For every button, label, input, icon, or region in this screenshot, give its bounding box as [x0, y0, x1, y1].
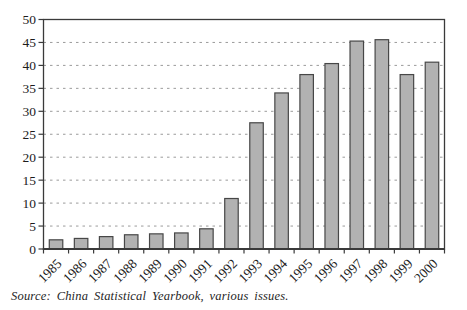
x-tick-label-1999: 1999 [386, 256, 416, 286]
bar-1993 [250, 123, 264, 249]
y-tick-label-30: 30 [23, 104, 37, 119]
y-tick-label-50: 50 [23, 12, 37, 27]
y-tick-label-25: 25 [23, 127, 37, 142]
fdi-bar-chart-figure: 0510152025303540455019851986198719881989… [0, 0, 467, 310]
bar-1991 [200, 229, 214, 249]
x-tick-label-1994: 1994 [261, 256, 291, 286]
bar-1997 [350, 41, 364, 249]
x-tick-label-1991: 1991 [185, 256, 215, 286]
x-tick-label-1988: 1988 [110, 256, 140, 286]
x-tick-label-1995: 1995 [286, 256, 316, 286]
bar-1998 [375, 40, 389, 249]
source-note: Source: China Statistical Yearbook, vari… [11, 289, 289, 304]
y-tick-label-35: 35 [23, 81, 37, 96]
x-tick-label-1987: 1987 [85, 256, 115, 286]
bar-1994 [275, 93, 289, 249]
y-tick-label-10: 10 [23, 196, 37, 211]
bar-1989 [150, 234, 164, 249]
x-tick-label-1985: 1985 [35, 256, 65, 286]
x-tick-label-1998: 1998 [361, 256, 391, 286]
bar-1988 [124, 235, 138, 249]
bar-1986 [74, 238, 88, 249]
bar-2000 [425, 62, 439, 249]
x-tick-label-1989: 1989 [135, 256, 165, 286]
bar-1992 [225, 199, 239, 249]
bar-1987 [99, 237, 113, 249]
y-tick-label-5: 5 [29, 219, 36, 234]
bar-1995 [300, 75, 314, 249]
x-tick-label-1996: 1996 [311, 256, 341, 286]
x-tick-label-1992: 1992 [210, 256, 240, 286]
y-tick-label-20: 20 [23, 150, 37, 165]
bar-1999 [400, 75, 414, 249]
y-tick-label-15: 15 [23, 173, 37, 188]
bar-1985 [49, 240, 63, 249]
x-tick-label-2000: 2000 [411, 256, 441, 286]
y-tick-label-0: 0 [29, 242, 36, 257]
x-tick-label-1997: 1997 [336, 256, 366, 286]
x-tick-label-1993: 1993 [235, 256, 265, 286]
x-tick-label-1990: 1990 [160, 256, 190, 286]
y-tick-label-45: 45 [23, 35, 37, 50]
x-tick-label-1986: 1986 [60, 256, 90, 286]
bar-chart: 0510152025303540455019851986198719881989… [0, 0, 467, 286]
y-tick-label-40: 40 [23, 58, 37, 73]
bar-1996 [325, 64, 339, 249]
bar-1990 [175, 233, 189, 249]
